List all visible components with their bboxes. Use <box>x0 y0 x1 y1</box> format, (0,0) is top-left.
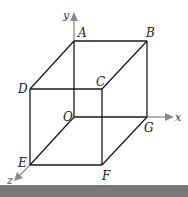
vertex-label-E: E <box>17 156 27 170</box>
vertex-label-B: B <box>145 26 155 40</box>
axis-label-y: y <box>62 9 70 22</box>
vertex-label-D: D <box>17 82 28 96</box>
vertex-label-A: A <box>77 26 87 40</box>
bottom-gray-bar <box>0 185 188 197</box>
edge-GF <box>102 117 147 165</box>
vertex-label-G: G <box>144 121 154 135</box>
axis-label-x: x <box>175 111 182 124</box>
vertex-label-C: C <box>96 75 105 89</box>
edge-OE <box>30 117 74 165</box>
cube-diagram: A B C D O G E F y x z <box>0 0 188 197</box>
y-axis-arrow-icon <box>70 12 78 21</box>
x-axis-arrow-icon <box>165 113 174 121</box>
vertex-label-O: O <box>63 110 73 124</box>
edge-BC <box>102 41 147 89</box>
vertex-label-F: F <box>101 169 111 183</box>
edge-AD <box>30 41 74 89</box>
